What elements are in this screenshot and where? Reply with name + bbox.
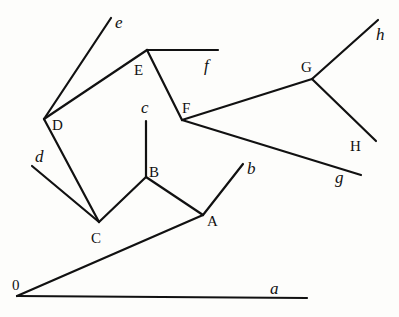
edge-A-B	[146, 177, 203, 215]
label-f: f	[204, 56, 211, 75]
label-B: B	[149, 164, 159, 180]
tree-diagram-canvas: 0ABCDEFGH abcdefgh	[0, 0, 399, 317]
label-h: h	[376, 25, 385, 44]
leaf-labels: abcdefgh	[35, 13, 385, 298]
edge-0-A	[17, 215, 203, 296]
internal-node-labels: 0ABCDEFGH	[12, 59, 361, 293]
label-A: A	[207, 213, 218, 229]
edge-C-d_end	[32, 166, 99, 222]
edge-A-b_end	[203, 164, 243, 215]
edge-G-h_end	[312, 20, 378, 79]
edge-D-e_end	[44, 18, 111, 119]
label-c: c	[141, 98, 149, 117]
edges-group	[17, 18, 378, 298]
label-b: b	[247, 159, 256, 178]
edge-F-g_end	[182, 120, 361, 175]
label-d: d	[35, 147, 44, 166]
edge-B-C	[99, 177, 146, 222]
label-C: C	[91, 230, 101, 246]
edge-D-E	[44, 50, 147, 119]
label-a: a	[270, 279, 279, 298]
label-G: G	[301, 59, 312, 75]
label-g: g	[335, 168, 344, 187]
label-D: D	[52, 117, 63, 133]
label-e: e	[115, 13, 123, 32]
edge-F-G	[182, 79, 312, 120]
edge-E-F	[147, 50, 182, 120]
edge-C-D	[44, 119, 99, 222]
label-F: F	[182, 100, 190, 116]
label-E: E	[134, 62, 143, 78]
label-0: 0	[12, 277, 20, 293]
label-H: H	[350, 138, 361, 154]
edge-0-a_end	[17, 296, 307, 298]
edge-G-H_end	[312, 79, 376, 141]
tree-diagram: 0ABCDEFGH abcdefgh	[0, 0, 399, 317]
